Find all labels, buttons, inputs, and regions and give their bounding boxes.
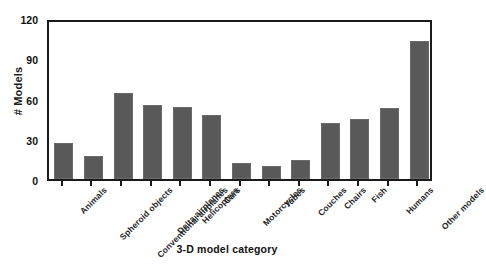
y-tick-label: 0 xyxy=(12,176,38,187)
x-tick-label: Humans xyxy=(404,185,435,216)
x-tick-mark xyxy=(387,181,389,186)
x-tick-label: Spheroid objects xyxy=(118,185,175,242)
x-tick-mark xyxy=(357,181,359,186)
bar xyxy=(232,163,251,179)
bar xyxy=(262,166,281,179)
bar xyxy=(410,41,429,179)
x-tick-mark xyxy=(209,181,211,186)
bar xyxy=(114,93,133,179)
x-tick-mark xyxy=(268,181,270,186)
bar xyxy=(202,115,221,179)
y-tick-label: 60 xyxy=(12,96,38,107)
y-tick-label: 90 xyxy=(12,55,38,66)
x-tick-mark xyxy=(120,181,122,186)
x-tick-mark xyxy=(327,181,329,186)
plot-frame xyxy=(47,20,432,181)
x-tick-mark xyxy=(90,181,92,186)
x-tick-mark xyxy=(61,181,63,186)
x-tick-label: Tubes xyxy=(282,185,307,210)
plot-area xyxy=(49,22,430,179)
bar xyxy=(84,156,103,179)
x-tick-label: Fish xyxy=(369,185,389,205)
x-tick-label: Other models xyxy=(440,185,486,232)
bar xyxy=(350,119,369,179)
x-tick-mark xyxy=(150,181,152,186)
x-tick-mark xyxy=(239,181,241,186)
bar xyxy=(143,105,162,179)
bar xyxy=(291,160,310,179)
bar xyxy=(380,108,399,179)
x-tick-mark xyxy=(179,181,181,186)
x-tick-mark xyxy=(416,181,418,186)
bar xyxy=(321,123,340,179)
y-tick-label: 120 xyxy=(12,15,38,26)
x-tick-label: Animals xyxy=(78,185,109,216)
bar xyxy=(54,143,73,179)
x-axis-title: 3-D model category xyxy=(0,243,454,255)
y-tick-label: 30 xyxy=(12,136,38,147)
bar xyxy=(173,107,192,179)
